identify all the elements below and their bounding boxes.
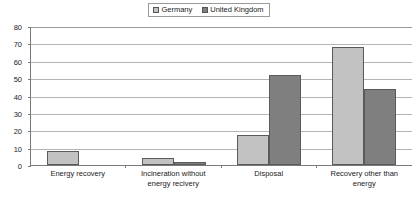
bar-united-kingdom[interactable] [174, 162, 206, 165]
bar-group [317, 27, 412, 165]
x-tick-label-line: energy [319, 179, 411, 189]
x-tick-label-line: Energy recovery [32, 169, 124, 179]
x-tick-label-line: energy recivery [128, 179, 220, 189]
bar-germany[interactable] [237, 135, 269, 165]
bar-group [126, 27, 221, 165]
y-tick-label: 80 [14, 23, 22, 32]
y-tick-label: 60 [14, 57, 22, 66]
x-tick-mark [221, 165, 222, 168]
y-tick-label: 40 [14, 92, 22, 101]
bar-groups [31, 27, 412, 165]
y-tick-label: 10 [14, 144, 22, 153]
y-tick-label: 50 [14, 75, 22, 84]
plot-area [30, 27, 412, 166]
legend-label-united-kingdom: United Kingdom [210, 6, 263, 14]
bar-group [31, 27, 126, 165]
x-tick-label: Incineration withoutenergy recivery [126, 169, 222, 189]
y-tick-label: 70 [14, 40, 22, 49]
x-tick-label: Energy recovery [30, 169, 126, 189]
legend-swatch-germany-icon [153, 7, 159, 13]
bar-germany[interactable] [332, 47, 364, 165]
legend-swatch-united-kingdom-icon [202, 7, 208, 13]
legend-item-germany: Germany [153, 6, 192, 14]
x-tick-label: Disposal [221, 169, 317, 189]
x-tick-label-line: Disposal [223, 169, 315, 179]
legend-box: Germany United Kingdom [148, 3, 269, 17]
y-tick-mark [28, 166, 31, 167]
legend-label-germany: Germany [161, 6, 192, 14]
plot-wrapper: 80706050403020100 Energy recoveryInciner… [0, 27, 418, 198]
bar-germany[interactable] [47, 151, 79, 165]
x-tick-label: Recovery other thanenergy [317, 169, 413, 189]
x-tick-mark [125, 165, 126, 168]
bar-germany[interactable] [142, 158, 174, 165]
bar-united-kingdom[interactable] [269, 75, 301, 165]
x-tick-mark [316, 165, 317, 168]
y-tick-label: 0 [18, 162, 22, 171]
bar-group [222, 27, 317, 165]
chart-legend: Germany United Kingdom [0, 3, 418, 17]
bar-chart: Germany United Kingdom 80706050403020100… [0, 0, 418, 198]
x-tick-label-line: Recovery other than [319, 169, 411, 179]
legend-item-united-kingdom: United Kingdom [202, 6, 263, 14]
x-tick-label-line: Incineration without [128, 169, 220, 179]
y-tick-label: 30 [14, 109, 22, 118]
bar-united-kingdom[interactable] [364, 89, 396, 165]
x-axis: Energy recoveryIncineration withoutenerg… [30, 169, 412, 189]
y-tick-label: 20 [14, 127, 22, 136]
y-axis: 80706050403020100 [0, 27, 26, 166]
